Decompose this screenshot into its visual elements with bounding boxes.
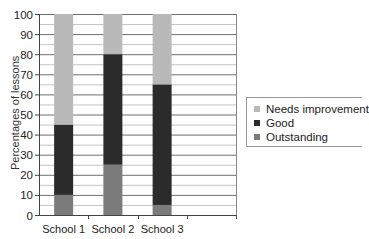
x-tick-label: School 3 — [141, 223, 184, 235]
legend-item-good: Good — [254, 116, 294, 130]
bar-good-school-2 — [103, 54, 122, 165]
y-tick-label: 30 — [20, 149, 33, 161]
x-tick-label: School 1 — [42, 223, 85, 235]
x-tick-label: School 2 — [91, 223, 134, 235]
y-tick-label: 50 — [20, 109, 33, 121]
y-tick-label: 80 — [20, 49, 33, 61]
y-tick-label: 40 — [20, 129, 33, 141]
y-tick-label: 70 — [20, 69, 33, 81]
y-tick-label: 0 — [27, 210, 33, 222]
legend-item-needs-improvement: Needs improvement — [254, 102, 369, 116]
y-tick-label: 60 — [20, 89, 33, 101]
bar-good-school-1 — [54, 125, 73, 195]
bar-needs-improvement-school-1 — [54, 14, 73, 125]
legend-item-outstanding: Outstanding — [254, 130, 328, 144]
bar-good-school-3 — [153, 84, 172, 205]
legend-swatch-needs-improvement — [254, 106, 260, 112]
bar-needs-improvement-school-3 — [153, 14, 172, 84]
y-tick-label: 90 — [20, 29, 33, 41]
bar-outstanding-school-2 — [103, 165, 122, 215]
legend-label-outstanding: Outstanding — [266, 131, 328, 143]
legend-label-needs-improvement: Needs improvement — [266, 103, 369, 115]
legend-label-good: Good — [266, 117, 294, 129]
legend: Needs improvement Good Outstanding — [246, 97, 362, 147]
y-tick-label: 20 — [20, 169, 33, 181]
bar-outstanding-school-3 — [153, 205, 172, 215]
y-tick-label: 10 — [20, 189, 33, 201]
legend-swatch-good — [254, 120, 260, 126]
bar-needs-improvement-school-2 — [103, 14, 122, 54]
y-axis-label: Percentages of lessons — [9, 60, 21, 170]
bar-outstanding-school-1 — [54, 195, 73, 215]
y-tick-label: 100 — [14, 9, 33, 21]
legend-swatch-outstanding — [254, 134, 260, 140]
